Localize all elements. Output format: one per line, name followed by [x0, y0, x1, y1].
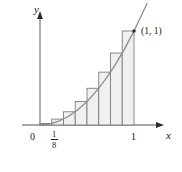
- riemann-rectangles: [40, 31, 134, 125]
- fraction-denominator: 8: [48, 141, 60, 150]
- x-tick-label-one: 1: [131, 132, 136, 142]
- marked-point: [132, 29, 135, 32]
- riemann-sum-figure: y x 0 1 8 1 (1, 1): [0, 0, 182, 172]
- origin-label: 0: [30, 132, 35, 142]
- point-label: (1, 1): [141, 27, 162, 37]
- riemann-bar: [122, 31, 134, 125]
- x-axis-label: x: [166, 130, 171, 141]
- y-axis: [37, 11, 43, 125]
- fraction-numerator: 1: [48, 130, 60, 139]
- x-axis-arrowhead: [156, 122, 164, 128]
- riemann-bar: [87, 88, 99, 125]
- riemann-bar: [75, 102, 87, 126]
- y-axis-label: y: [34, 4, 39, 15]
- x-tick-label-one-eighth: 1 8: [48, 130, 60, 150]
